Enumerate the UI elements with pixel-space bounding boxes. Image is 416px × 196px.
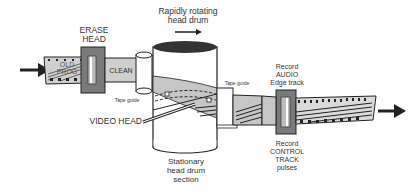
record-head <box>276 90 296 134</box>
rotation-arrow <box>175 29 202 35</box>
old-prog-label: OLD PROG <box>54 61 80 75</box>
record-control-line3: TRACK <box>264 156 310 164</box>
erase-head-label: ERASE HEAD <box>76 26 112 44</box>
old-prog-line2: PROG <box>54 68 80 75</box>
rotating-drum-label: Rapidly rotating head drum <box>150 7 226 25</box>
stationary-drum-line1: Stationary <box>160 157 212 166</box>
video-head-label: VIDEO HEAD <box>84 117 142 126</box>
stationary-drum-label: Stationary head drum section <box>160 157 212 184</box>
erase-head <box>81 47 105 93</box>
clean-label: CLEAN <box>105 66 137 75</box>
record-control-line4: pulses <box>264 164 310 172</box>
tape-guide-right-label: Tape guide <box>222 80 252 86</box>
video-head-marker-1 <box>165 92 169 96</box>
tape-guide-left-label: Tape guide <box>112 97 142 103</box>
rotating-drum-line2: head drum <box>150 16 226 25</box>
tape-guide-left <box>136 52 152 94</box>
record-audio-label: Record AUDIO Edge track <box>266 63 308 87</box>
record-control-label: Record CONTROL TRACK pulses <box>264 140 310 172</box>
tape-output-arrow <box>378 104 406 118</box>
record-audio-line2: AUDIO <box>266 71 308 79</box>
tape-recorded <box>233 95 262 125</box>
record-audio-line3: Edge track <box>266 79 308 87</box>
record-audio-line1: Record <box>266 63 308 71</box>
old-prog-line1: OLD <box>54 61 80 68</box>
video-head-marker-2 <box>207 98 211 102</box>
stationary-drum-line3: section <box>160 175 212 184</box>
record-control-line2: CONTROL <box>264 148 310 156</box>
erase-head-label-line2: HEAD <box>76 35 112 44</box>
stationary-drum-line2: head drum <box>160 166 212 175</box>
tape-output <box>296 96 376 124</box>
head-drum <box>153 41 217 153</box>
record-control-line1: Record <box>264 140 310 148</box>
